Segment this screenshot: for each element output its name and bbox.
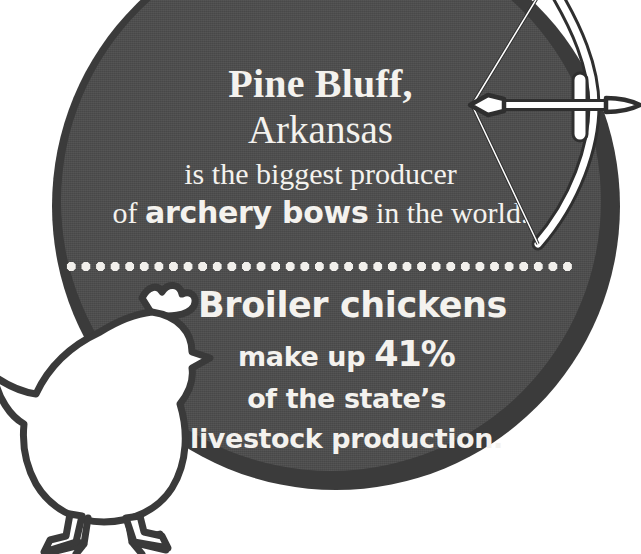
infographic-canvas: Pine Bluff, Arkansas is the biggest prod… (0, 0, 641, 554)
dotted-divider (64, 262, 574, 271)
chicken-silhouette-icon (0, 276, 220, 554)
archery-line-prefix: of (113, 196, 146, 229)
archery-bows-emphasis: archery bows (145, 195, 368, 230)
archery-bow-icon (452, 0, 641, 256)
make-up-prefix: make up (238, 341, 374, 372)
percent-stat: 41% (374, 334, 455, 374)
